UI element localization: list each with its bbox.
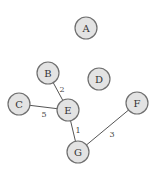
node-c: C [8,93,30,115]
node-label: E [64,105,71,116]
node-d: D [88,68,110,90]
node-label: D [95,74,103,85]
node-label: A [81,23,90,34]
edge-weight-label: 3 [109,130,114,139]
node-e: E [57,99,79,121]
node-g: G [67,141,89,163]
edge-weight-label: 2 [59,85,64,94]
weighted-graph-diagram: 2513 ABDCEFG [0,0,161,185]
node-label: C [15,99,23,110]
nodes-layer: ABDCEFG [8,17,148,163]
edge-weight-label: 5 [41,110,46,119]
node-label: F [134,98,141,109]
node-b: B [37,62,59,84]
edge-weight-label: 1 [75,126,80,135]
node-label: G [74,147,82,158]
node-a: A [75,17,97,39]
node-label: B [44,68,51,79]
node-f: F [126,92,148,114]
